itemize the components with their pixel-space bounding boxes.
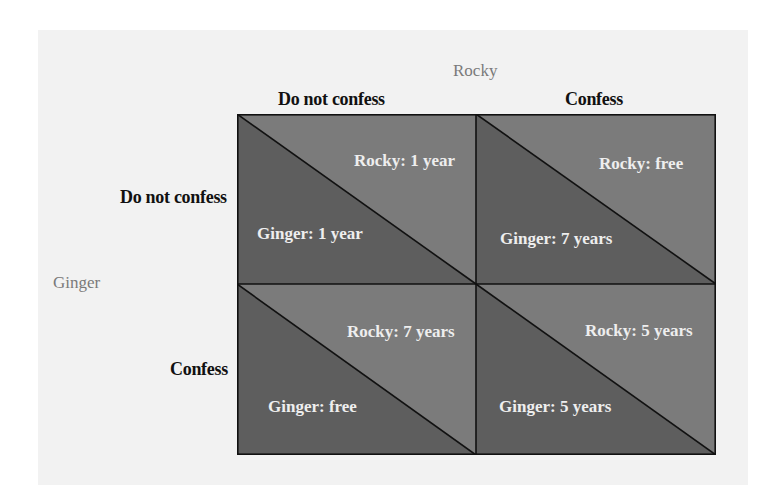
cell-dnc-c-ginger-payoff: Ginger: 7 years (500, 229, 612, 249)
cell-dnc-dnc-ginger-payoff: Ginger: 1 year (257, 224, 363, 244)
cell-dnc-dnc-rocky-payoff: Rocky: 1 year (354, 151, 455, 171)
payoff-matrix: Rocky: 1 year Ginger: 1 year Rocky: free… (237, 114, 716, 455)
cell-c-dnc-rocky-payoff: Rocky: 7 years (347, 322, 455, 342)
column-strategy-confess: Confess (565, 89, 623, 110)
cell-c-c-ginger-payoff: Ginger: 5 years (499, 397, 611, 417)
cell-dnc-c-rocky-payoff: Rocky: free (599, 154, 683, 174)
row-strategy-do-not-confess: Do not confess (120, 187, 227, 208)
cell-c-dnc-ginger-payoff: Ginger: free (268, 397, 357, 417)
row-player-label: Ginger (53, 273, 100, 293)
cell-c-c-rocky-payoff: Rocky: 5 years (585, 321, 693, 341)
column-player-label: Rocky (453, 61, 497, 81)
row-strategy-confess: Confess (170, 359, 228, 380)
column-strategy-do-not-confess: Do not confess (278, 89, 385, 110)
